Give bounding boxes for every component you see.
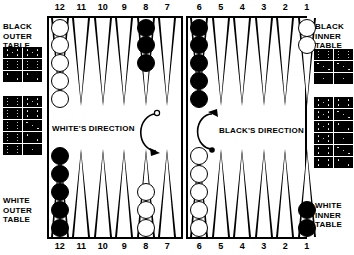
checker-white-top-point-12[interactable] — [51, 72, 69, 90]
die-3 — [334, 145, 353, 156]
die-pip — [323, 126, 325, 128]
die-pip — [348, 117, 350, 119]
die-pip — [328, 57, 330, 59]
die-1 — [334, 133, 353, 144]
label-white-inner-table: WHITE INNER TABLE — [315, 201, 342, 230]
label-white-outer-table: WHITE OUTER TABLE — [3, 196, 32, 225]
black-direction-label: BLACK'S DIRECTION — [219, 126, 304, 135]
die-pip — [328, 104, 330, 106]
point-numbers-top: 121110987654321 — [47, 1, 307, 15]
die-pip — [7, 122, 9, 124]
die-pip — [328, 147, 330, 149]
point-number-3: 3 — [257, 1, 271, 14]
die-1 — [334, 73, 353, 84]
checker-black-top-point-8[interactable] — [137, 54, 155, 72]
die-pip — [17, 101, 19, 103]
point-triangle-bottom-fill — [160, 153, 174, 237]
die-pip — [17, 116, 19, 118]
die-pip — [318, 116, 320, 118]
point-number-4: 4 — [235, 1, 249, 14]
checker-black-top-point-8[interactable] — [137, 36, 155, 54]
die-5 — [314, 109, 333, 120]
die-pip — [338, 57, 340, 59]
point-number-1: 1 — [300, 240, 314, 253]
die-pip — [348, 69, 350, 71]
checker-black-top-point-8[interactable] — [137, 19, 155, 37]
checker-black-bottom-point-12[interactable] — [51, 147, 69, 165]
die-6 — [314, 49, 333, 60]
die-pip — [27, 98, 29, 100]
point-triangle-top-fill — [235, 18, 249, 102]
point-number-8: 8 — [139, 1, 153, 14]
die-2 — [23, 132, 42, 143]
checker-white-bottom-point-8[interactable] — [137, 219, 155, 237]
die-pip — [348, 128, 350, 130]
die-pip — [37, 78, 39, 80]
die-pip — [328, 54, 330, 56]
die-pip — [337, 111, 339, 113]
die-5 — [23, 96, 42, 107]
die-2 — [23, 71, 42, 82]
die-6 — [3, 108, 22, 119]
checker-white-top-point-12[interactable] — [51, 54, 69, 72]
checker-black-bottom-point-12[interactable] — [51, 201, 69, 219]
die-pip — [348, 51, 350, 53]
die-4 — [334, 97, 353, 108]
die-1 — [23, 144, 42, 155]
die-pip — [27, 54, 29, 56]
die-pip — [7, 67, 9, 69]
die-pip — [318, 111, 320, 113]
die-pip — [348, 54, 350, 56]
point-number-10: 10 — [96, 240, 110, 253]
die-pip — [328, 159, 330, 161]
checker-white-top-point-12[interactable] — [51, 19, 69, 37]
point-triangle-top-fill — [74, 18, 88, 102]
checker-white-bottom-point-6[interactable] — [190, 219, 208, 237]
die-pip — [27, 115, 29, 117]
checker-white-top-point-12[interactable] — [51, 36, 69, 54]
die-pip — [37, 139, 39, 141]
die-pip — [318, 164, 320, 166]
die-5 — [3, 47, 22, 58]
checker-white-bottom-point-8[interactable] — [137, 201, 155, 219]
die-pip — [37, 128, 39, 130]
checker-black-top-point-6[interactable] — [190, 19, 208, 37]
die-pip — [318, 57, 320, 59]
die-pip — [343, 138, 345, 140]
die-pip — [338, 123, 340, 125]
die-pip — [343, 66, 345, 68]
die-pip — [7, 152, 9, 154]
checker-black-top-point-6[interactable] — [190, 90, 208, 108]
white-direction-label: WHITE'S DIRECTION — [52, 124, 135, 133]
checker-black-bottom-point-1[interactable] — [298, 201, 316, 219]
die-pip — [37, 61, 39, 63]
point-triangle-top-fill — [96, 18, 110, 102]
checker-black-bottom-point-1[interactable] — [298, 219, 316, 237]
die-pip — [7, 146, 9, 148]
die-pip — [27, 103, 29, 105]
die-pip — [7, 61, 9, 63]
point-number-6: 6 — [192, 1, 206, 14]
checker-black-bottom-point-12[interactable] — [51, 165, 69, 183]
die-pip — [37, 64, 39, 66]
point-number-12: 12 — [53, 1, 67, 14]
die-2 — [3, 71, 22, 82]
die-pip — [37, 115, 39, 117]
checker-white-top-point-12[interactable] — [51, 90, 69, 108]
die-pip — [26, 122, 28, 124]
die-pip — [318, 152, 320, 154]
die-pip — [17, 125, 19, 127]
die-pip — [328, 140, 330, 142]
checker-white-bottom-point-6[interactable] — [190, 201, 208, 219]
checker-black-bottom-point-12[interactable] — [51, 183, 69, 201]
checker-black-bottom-point-12[interactable] — [51, 219, 69, 237]
checker-white-bottom-point-8[interactable] — [137, 183, 155, 201]
point-number-7: 7 — [160, 240, 174, 253]
die-pip — [37, 54, 39, 56]
die-pip — [328, 135, 330, 137]
die-pip — [318, 159, 320, 161]
point-number-7: 7 — [160, 1, 174, 14]
point-number-1: 1 — [300, 1, 314, 14]
checker-white-top-point-1[interactable] — [298, 19, 316, 37]
die-pip — [318, 140, 320, 142]
